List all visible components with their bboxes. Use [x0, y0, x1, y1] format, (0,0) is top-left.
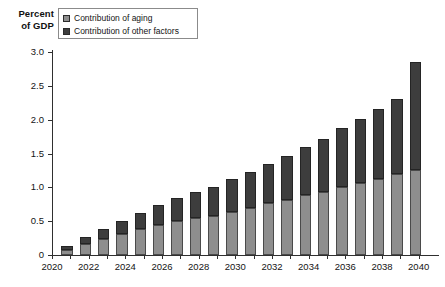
bar-segment-aging [336, 187, 347, 255]
x-tick-label: 2030 [217, 261, 253, 272]
x-tick-label: 2020 [34, 261, 70, 272]
bar-stack [410, 62, 421, 255]
bar-segment-other-factors [410, 62, 421, 170]
bar-stack [190, 192, 201, 255]
bar-segment-other-factors [391, 99, 402, 175]
legend-swatch-other-factors [63, 28, 70, 35]
bar-segment-other-factors [373, 109, 384, 179]
bar-stack [80, 237, 91, 255]
chart-root: Percent of GDP Contribution of aging Con… [0, 0, 445, 287]
x-tick-label: 2038 [364, 261, 400, 272]
bar-stack [226, 179, 237, 255]
bar-segment-aging [80, 244, 91, 255]
x-tick-mark [382, 255, 383, 259]
x-tick-label: 2028 [181, 261, 217, 272]
x-tick-mark [107, 255, 108, 259]
legend-label-other-factors: Contribution of other factors [74, 27, 179, 36]
bar-segment-other-factors [208, 187, 219, 216]
bar-stack [135, 213, 146, 255]
bar-segment-aging [190, 218, 201, 255]
bar-segment-other-factors [80, 237, 91, 244]
x-tick-mark [89, 255, 90, 259]
bar-segment-aging [355, 183, 366, 255]
x-tick-label: 2022 [71, 261, 107, 272]
bar-stack [263, 164, 274, 255]
bar-segment-other-factors [318, 139, 329, 192]
bar-segment-other-factors [171, 198, 182, 221]
x-tick-mark [52, 255, 53, 259]
bar-segment-aging [61, 250, 72, 255]
x-tick-mark [70, 255, 71, 259]
bar-stack [336, 128, 347, 255]
x-tick-label: 2024 [107, 261, 143, 272]
x-tick-label: 2036 [327, 261, 363, 272]
y-tick-label: 1.0 [16, 181, 44, 192]
bar-segment-aging [153, 225, 164, 255]
bar-stack [116, 221, 127, 255]
bar-segment-aging [245, 208, 256, 255]
bar-segment-other-factors [135, 213, 146, 229]
bar-stack [391, 99, 402, 255]
x-tick-label: 2034 [291, 261, 327, 272]
y-tick-label: 0 [16, 249, 44, 260]
bar-stack [171, 198, 182, 255]
legend-swatch-aging [63, 15, 70, 22]
bar-segment-other-factors [300, 147, 311, 196]
bar-stack [281, 156, 292, 255]
bar-stack [245, 172, 256, 255]
legend-label-aging: Contribution of aging [74, 14, 152, 23]
bar-segment-aging [116, 234, 127, 255]
bar-segment-aging [281, 200, 292, 255]
bar-segment-aging [300, 195, 311, 255]
bar-segment-aging [410, 170, 421, 255]
bar-stack [98, 229, 109, 255]
bar-segment-aging [98, 239, 109, 255]
y-tick-label: 2.0 [16, 114, 44, 125]
chart-legend: Contribution of aging Contribution of ot… [58, 8, 198, 39]
x-tick-mark [345, 255, 346, 259]
x-tick-label: 2026 [144, 261, 180, 272]
plot-area: 00.51.01.52.02.53.0 20202022202420262028… [52, 52, 437, 255]
y-tick-label: 1.5 [16, 148, 44, 159]
x-tick-mark [144, 255, 145, 259]
x-tick-mark [272, 255, 273, 259]
x-tick-mark [217, 255, 218, 259]
bar-stack [61, 246, 72, 255]
bar-segment-other-factors [226, 179, 237, 212]
bar-segment-other-factors [190, 192, 201, 218]
x-tick-mark [290, 255, 291, 259]
x-tick-mark [180, 255, 181, 259]
legend-item-aging: Contribution of aging [63, 12, 197, 24]
x-tick-mark [235, 255, 236, 259]
bar-segment-other-factors [263, 164, 274, 203]
legend-item-other-factors: Contribution of other factors [63, 25, 197, 37]
bar-segment-aging [208, 216, 219, 255]
y-axis-title-line1: Percent [2, 8, 54, 20]
bar-stack [153, 205, 164, 255]
bar-segment-aging [171, 221, 182, 255]
x-tick-mark [327, 255, 328, 259]
bar-stack [373, 109, 384, 255]
y-axis-title: Percent of GDP [2, 8, 54, 31]
bar-segment-aging [226, 212, 237, 255]
bar-stack [355, 119, 366, 255]
bar-segment-other-factors [116, 221, 127, 234]
bar-segment-other-factors [245, 172, 256, 208]
y-tick-label: 0.5 [16, 215, 44, 226]
x-tick-mark [254, 255, 255, 259]
x-tick-mark [162, 255, 163, 259]
bar-segment-aging [135, 229, 146, 255]
bar-segment-other-factors [98, 229, 109, 238]
x-tick-label: 2032 [254, 261, 290, 272]
bar-stack [208, 187, 219, 255]
x-tick-mark [309, 255, 310, 259]
bar-segment-other-factors [61, 246, 72, 249]
y-tick-label: 2.5 [16, 80, 44, 91]
bar-segment-other-factors [281, 156, 292, 200]
x-axis-line [52, 255, 439, 256]
bar-segment-aging [318, 192, 329, 255]
bar-stack [318, 139, 329, 255]
bar-stack [300, 147, 311, 255]
y-tick-label: 3.0 [16, 46, 44, 57]
x-tick-mark [199, 255, 200, 259]
